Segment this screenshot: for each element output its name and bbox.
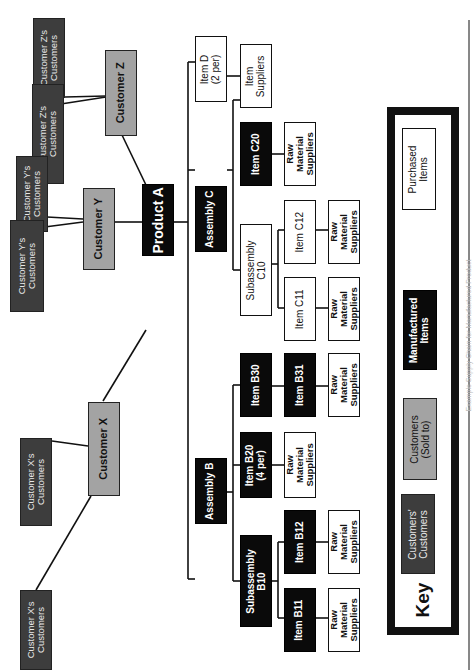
legend-label: Manufactured Items: [410, 297, 431, 363]
assembly-c-label: Assembly C: [206, 190, 217, 247]
item-suppliers-label: Item Suppliers: [246, 55, 267, 97]
subassembly-b10-box: Subassembly B10: [240, 535, 272, 627]
legend-customers-sold-to: Customers (Sold to): [403, 398, 437, 480]
raw-material-suppliers-label: Raw Material Suppliers: [329, 287, 359, 330]
item-b30-box: Item B30: [240, 353, 272, 417]
customer-y-label: Customer Y: [93, 198, 105, 260]
raw-material-suppliers-label: Raw Material Suppliers: [329, 598, 359, 641]
item-suppliers-box: Item Suppliers: [240, 44, 272, 108]
product-a-label: Product A: [151, 187, 166, 253]
customer-y-box: Customer Y: [83, 188, 115, 270]
assembly-b-label: Assembly B: [206, 462, 217, 519]
item-b20-label: Item B20 (4 per): [246, 444, 267, 486]
subassembly-b10-label: Subassembly B10: [246, 549, 267, 613]
item-b30-label: Item B30: [251, 364, 262, 406]
item-b11-box: Item B11: [284, 588, 316, 652]
customer-x-customers-label: Customer X's Customers: [26, 602, 46, 659]
raw-material-suppliers-label: Raw Material Suppliers: [329, 520, 359, 563]
item-c20-label: Item C20: [251, 133, 262, 175]
item-c12-box: Item C12: [284, 200, 316, 264]
legend-manufactured-items: Manufactured Items: [403, 290, 437, 370]
item-c11-label: Item C11: [295, 289, 306, 329]
legend-label: Purchased Items: [409, 145, 430, 193]
customer-y-customers-label: Customer Y's Customers: [17, 238, 37, 295]
subassembly-c10-label: Subassembly C10: [246, 240, 267, 300]
customer-x-customers-box: Customer X's Customers: [20, 590, 52, 670]
raw-material-suppliers-label: Raw Material Suppliers: [285, 132, 315, 175]
item-c12-label: Item C12: [295, 212, 306, 253]
legend-label: Customers' Customers: [408, 509, 429, 559]
raw-material-suppliers-c20-box: Raw Material Suppliers: [284, 122, 316, 186]
customer-x-customers-box: Customer X's Customers: [20, 438, 52, 526]
legend-title-text: Key: [412, 583, 434, 618]
figure-caption: Example Supply Chain for Manufactured Pr…: [462, 0, 476, 670]
product-a-box: Product A: [142, 184, 174, 256]
raw-material-suppliers-b31-box: Raw Material Suppliers: [328, 353, 360, 417]
customer-x-customers-label: Customer X's Customers: [26, 454, 46, 511]
customer-y-customers-box: Customer Y's Customers: [10, 220, 44, 312]
item-b31-box: Item B31: [284, 353, 316, 417]
item-d-label: Item D (2 per): [200, 54, 221, 83]
item-b12-label: Item B12: [295, 521, 306, 563]
legend-purchased-items: Purchased Items: [402, 128, 436, 210]
raw-material-suppliers-c11-box: Raw Material Suppliers: [328, 277, 360, 341]
item-d-box: Item D (2 per): [195, 36, 227, 102]
item-c11-box: Item C11: [284, 277, 316, 341]
customer-z-customers-label: Customer Z's Customers: [38, 106, 58, 162]
legend-label: Customers (Sold to): [410, 415, 431, 463]
assembly-c-box: Assembly C: [195, 186, 227, 252]
customer-x-label: Customer X: [98, 418, 110, 480]
item-c20-box: Item C20: [240, 122, 272, 186]
item-b12-box: Item B12: [284, 510, 316, 574]
subassembly-c10-box: Subassembly C10: [240, 224, 272, 316]
customer-y-customers-label: Customer Y's Customers: [22, 166, 42, 223]
customer-z-customers-label: Customer Z's Customers: [39, 30, 59, 86]
customer-z-label: Customer Z: [115, 62, 127, 123]
item-b31-label: Item B31: [295, 364, 306, 406]
customer-x-box: Customer X: [88, 402, 120, 496]
legend-customers-customers: Customers' Customers: [401, 494, 435, 574]
item-b11-label: Item B11: [295, 599, 306, 640]
item-b20-box: Item B20 (4 per): [240, 432, 272, 498]
raw-material-suppliers-b20-box: Raw Material Suppliers: [284, 432, 316, 498]
assembly-b-box: Assembly B: [195, 458, 227, 524]
raw-material-suppliers-label: Raw Material Suppliers: [285, 443, 315, 486]
raw-material-suppliers-label: Raw Material Suppliers: [329, 210, 359, 253]
raw-material-suppliers-label: Raw Material Suppliers: [329, 363, 359, 406]
raw-material-suppliers-c12-box: Raw Material Suppliers: [328, 200, 360, 264]
raw-material-suppliers-b11-box: Raw Material Suppliers: [328, 588, 360, 652]
caption-text: Example Supply Chain for Manufactured Pr…: [466, 259, 473, 411]
raw-material-suppliers-b12-box: Raw Material Suppliers: [328, 510, 360, 574]
legend-title: Key: [398, 580, 448, 620]
customer-z-box: Customer Z: [105, 50, 137, 136]
